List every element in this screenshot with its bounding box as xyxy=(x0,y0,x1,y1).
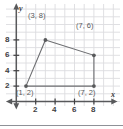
x-tick-label-6: 6 xyxy=(72,106,76,114)
bottom-strip xyxy=(0,126,123,129)
x-axis-arrow-left xyxy=(6,99,12,105)
x-axis xyxy=(6,99,118,105)
point-label-1-2: (1, 2) xyxy=(16,89,34,97)
x-axis-name: x xyxy=(111,91,115,99)
plot-canvas xyxy=(0,0,123,129)
y-tick-label-2: 2 xyxy=(5,82,9,90)
x-tick-label-2: 2 xyxy=(33,106,37,114)
point-label-7-6: (7, 6) xyxy=(76,22,94,30)
y-tick-label-8: 8 xyxy=(5,36,9,44)
y-tick-label-6: 6 xyxy=(5,51,9,59)
point-label-3-8: (3, 8) xyxy=(28,12,46,20)
coordinate-plane-figure: 8 6 4 2 2 4 6 8 y x (3, 8) (7, 6) (7, 2)… xyxy=(0,0,123,129)
x-axis-arrow-right xyxy=(111,99,117,105)
vertex-point-7-6 xyxy=(92,53,96,57)
y-tick-label-4: 4 xyxy=(5,67,9,75)
point-label-7-2: (7, 2) xyxy=(78,89,96,97)
vertex-point-3-8 xyxy=(44,38,48,42)
x-tick-label-8: 8 xyxy=(91,106,95,114)
x-tick-label-4: 4 xyxy=(52,106,56,114)
y-axis-arrow-down xyxy=(13,103,19,109)
y-axis-name: y xyxy=(19,5,23,13)
